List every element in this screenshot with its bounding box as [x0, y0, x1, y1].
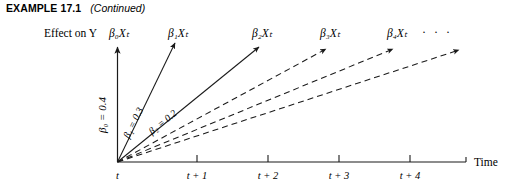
arrow-label-beta0: β₀Xₜ	[108, 27, 130, 40]
x-tick-label-t1: t + 1	[187, 170, 208, 181]
ray-beta3	[118, 49, 327, 162]
y-axis-caption: Effect on Y	[44, 27, 98, 39]
distributed-lag-chart: Effect on Y β₀Xₜ β₁Xₜ β₂Xₜ β₃Xₜ β₄Xₜ · ·…	[0, 0, 517, 188]
beta0-value-label: β₀ = 0.4	[96, 97, 108, 134]
x-tick-label-t3: t + 3	[329, 170, 350, 181]
arrow-label-beta2: β₂Xₜ	[251, 27, 273, 40]
slope-label-beta2: β₂ = 0.2	[146, 107, 179, 137]
x-tick-label-t: t	[116, 170, 120, 181]
x-tick-label-t2: t + 2	[258, 170, 279, 181]
ray-continuation	[118, 50, 460, 162]
figure-root: EXAMPLE 17.1(Continued) Effect on Y	[0, 0, 517, 188]
slope-label-beta1: β₁ = 0.3	[120, 106, 145, 141]
ray-beta4	[118, 49, 394, 162]
ray-beta1	[118, 43, 176, 162]
arrow-label-beta3: β₃Xₜ	[319, 27, 341, 40]
ellipsis-label: · · ·	[422, 25, 453, 39]
arrow-label-beta4: β₄Xₜ	[386, 27, 408, 40]
x-tick-label-t4: t + 4	[400, 170, 421, 181]
arrow-label-beta1: β₁Xₜ	[167, 27, 189, 40]
ray-beta2	[118, 47, 260, 162]
x-axis-label: Time	[474, 156, 498, 168]
